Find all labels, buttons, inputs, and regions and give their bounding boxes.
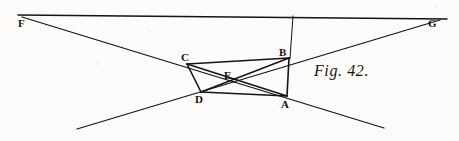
line-vertical-from-FG-to-B [290,16,293,59]
paper-speck [96,62,99,65]
line-FG-top-horizontal [18,15,447,19]
edge-CB [187,58,289,64]
figure-canvas: F G C B D A E Fig. 42. [0,0,459,141]
line-G-through-B-to-D-extended [77,20,440,129]
edge-BA [287,58,289,96]
point-label-D: D [195,94,203,105]
point-label-F: F [18,18,25,29]
figure-caption: Fig. 42. [314,62,369,80]
point-label-A: A [281,99,289,110]
point-label-B: B [279,47,287,58]
segments-group [18,15,447,129]
point-label-C: C [181,52,189,63]
point-label-G: G [428,18,437,29]
point-label-E: E [224,70,232,81]
paper-speck [148,30,150,32]
paper-speck [435,5,437,8]
